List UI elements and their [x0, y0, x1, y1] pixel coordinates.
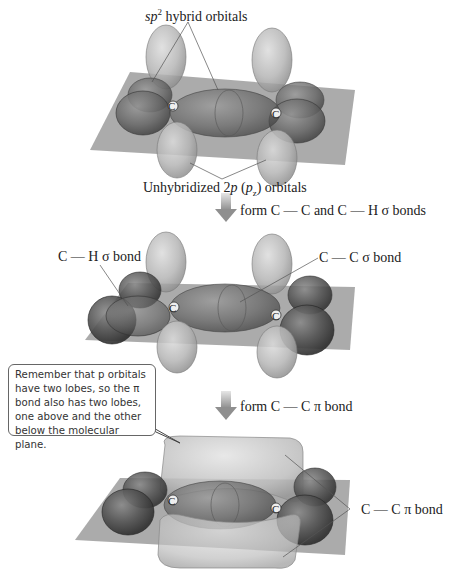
sp2-lobe-left — [116, 91, 170, 135]
atom-label-c2: C — [272, 106, 279, 122]
label-pz: p — [246, 180, 253, 195]
cc-pi-bond-label: C — C π bond — [361, 502, 443, 518]
label-paren: ( — [237, 180, 245, 195]
pz-lobe-lower-right — [257, 130, 297, 186]
atom-label-c2: C — [272, 501, 279, 517]
step1-label: form C — C and C — H σ bonds — [240, 203, 426, 219]
atom-label-c1: C — [168, 98, 175, 114]
atom-label-c1: C — [169, 300, 176, 316]
pz-lobe-upper-right — [252, 28, 292, 92]
sp-text: sp — [145, 9, 157, 24]
label-prefix: Unhybridized 2 — [143, 180, 230, 195]
hybrid-orbitals-text: hybrid orbitals — [162, 9, 248, 24]
atom-label-c1: C — [168, 493, 175, 509]
cc-sigma-bond-label: C — C σ bond — [319, 250, 401, 266]
pi-bond-callout: Remember that p orbitals have two lobes,… — [8, 364, 156, 436]
atom-label-c2: C — [272, 308, 279, 324]
pz-lobe-lower-left — [157, 122, 197, 178]
stage3-molecule — [75, 426, 350, 568]
unhybridized-orbitals-label: Unhybridized 2p (pz) orbitals — [143, 180, 307, 201]
step2-label: form C — C π bond — [240, 399, 352, 415]
step-arrow-2 — [215, 391, 237, 420]
orbital-diagram — [0, 0, 449, 576]
pi-bond-lower-lobe — [158, 514, 300, 568]
stage1-molecule — [90, 22, 355, 186]
sp2-hybrid-orbitals-label: sp2 hybrid orbitals — [145, 4, 248, 25]
label-suffix: ) orbitals — [257, 180, 307, 195]
ch-sigma-bond-label: C — H σ bond — [58, 249, 141, 265]
